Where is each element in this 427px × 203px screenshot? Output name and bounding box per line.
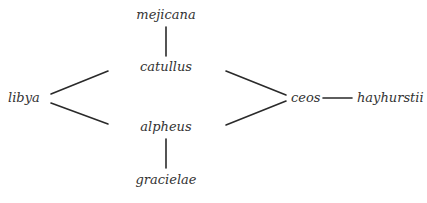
node-libya: libya <box>8 90 40 106</box>
node-hayhurstii: hayhurstii <box>357 90 424 106</box>
node-alpheus: alpheus <box>140 119 191 135</box>
edge-libya-catullus <box>51 71 108 94</box>
node-gracielae: gracielae <box>135 172 196 188</box>
edge-alpheus-ceos <box>226 101 286 125</box>
node-catullus: catullus <box>140 59 192 75</box>
edge-catullus-ceos <box>226 71 286 95</box>
edge-libya-alpheus <box>51 103 108 124</box>
node-mejicana: mejicana <box>136 7 195 23</box>
node-ceos: ceos <box>291 90 320 106</box>
network-diagram: mejicana catullus libya alpheus graciela… <box>0 0 427 203</box>
